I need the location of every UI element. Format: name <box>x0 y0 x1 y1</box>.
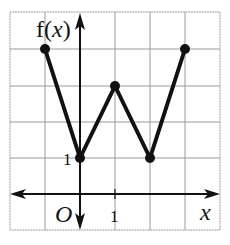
point-3-4 <box>180 44 190 54</box>
x-axis-label: x <box>199 199 211 225</box>
x-tick-label-1: 1 <box>110 207 119 226</box>
origin-label: O <box>55 201 72 227</box>
point-1-3 <box>110 81 120 91</box>
x-axis <box>10 189 220 199</box>
y-axis-label: f(x) <box>36 16 71 42</box>
function-graph: f(x) x O 1 1 <box>0 0 230 245</box>
point-neg1-4 <box>40 44 50 54</box>
y-tick-label-1: 1 <box>63 150 72 169</box>
point-2-1 <box>145 153 155 163</box>
point-0-1 <box>75 153 85 163</box>
